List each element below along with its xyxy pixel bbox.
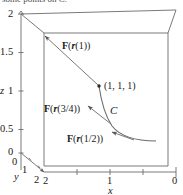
curve-C (99, 86, 156, 141)
z-tick-label-1: 1 (8, 86, 13, 97)
curve-label-C: C (110, 105, 117, 116)
figure-3d-vector-field-on-curve: some points on C. (0, 0, 183, 195)
box-edge-left-back-to-front (21, 14, 44, 33)
vector-F-r-3-4 (88, 106, 111, 124)
x-axis-name: x (108, 186, 113, 195)
vector-label-F-r-3-4-arg: (3/4) (57, 103, 76, 114)
vector-label-F-r-3-4-close: ) (77, 103, 80, 114)
y-tick-label-0: 0 (12, 157, 17, 168)
x-tick-label-0: 0 (172, 176, 177, 187)
z-axis-group (19, 11, 24, 170)
point-label-111: (1, 1, 1) (104, 81, 136, 91)
vector-label-F-r-1-2: F(r(1/2)) (67, 134, 103, 144)
vector-label-F-r-1-arg: (1) (75, 40, 87, 51)
y-axis-name: y (14, 172, 19, 183)
z-axis-name: z (0, 86, 4, 97)
vector-label-F-r-1-close: ) (87, 40, 90, 51)
z-tick-label-1-5: 1.5 (0, 47, 13, 58)
box-edge-right-back-to-front (168, 10, 176, 33)
figure-canvas (0, 0, 183, 195)
y-tick-label-1: 1 (22, 165, 27, 176)
vector-label-F-r-1: F(r(1)) (62, 41, 90, 51)
x-tick-label-2: 2 (43, 176, 48, 187)
z-tick-label-2: 2 (8, 9, 13, 20)
y-tick-label-2: 2 (34, 175, 39, 186)
vector-F-r-1-2 (112, 132, 134, 140)
curve-C-path (99, 86, 156, 141)
vector-label-F-r-1-2-close: ) (100, 133, 103, 144)
vector-label-F-r-1-2-arg: (1/2) (80, 133, 99, 144)
box-edge-top-back (21, 10, 176, 14)
vector-label-F-r-3-4: F(r(3/4)) (44, 104, 80, 114)
z-tick-label-0-5: 0.5 (0, 124, 13, 135)
